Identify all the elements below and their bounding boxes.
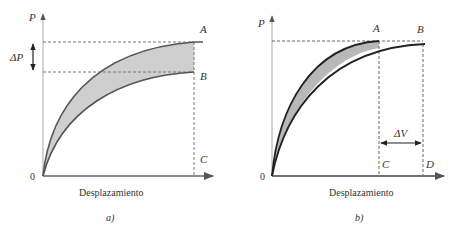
panel-caption: b) [355, 212, 364, 224]
point-c-label: C [382, 158, 390, 170]
figure: P ΔP A B C 0 Desplazamiento a) P A B C D… [0, 0, 455, 230]
point-b-label: B [200, 70, 207, 82]
point-d-label: D [425, 158, 434, 170]
point-b-label: B [417, 23, 424, 35]
curve-stiff [272, 41, 379, 176]
y-axis-label: P [257, 17, 265, 29]
point-a-label: A [372, 22, 380, 34]
panel-a: P ΔP A B C 0 Desplazamiento a) [9, 11, 213, 224]
y-axis-label: P [28, 11, 36, 23]
panel-b: P A B C D ΔV 0 Desplazamiento b) [257, 16, 444, 224]
panel-caption: a) [106, 212, 115, 224]
origin-label: 0 [30, 171, 35, 182]
point-a-label: A [199, 23, 207, 35]
origin-label: 0 [260, 171, 265, 182]
delta-v-label: ΔV [393, 127, 408, 139]
point-c-label: C [200, 153, 208, 165]
delta-p-label: ΔP [9, 51, 23, 63]
x-axis-label: Desplazamiento [79, 187, 143, 198]
x-axis-label: Desplazamiento [329, 187, 393, 198]
